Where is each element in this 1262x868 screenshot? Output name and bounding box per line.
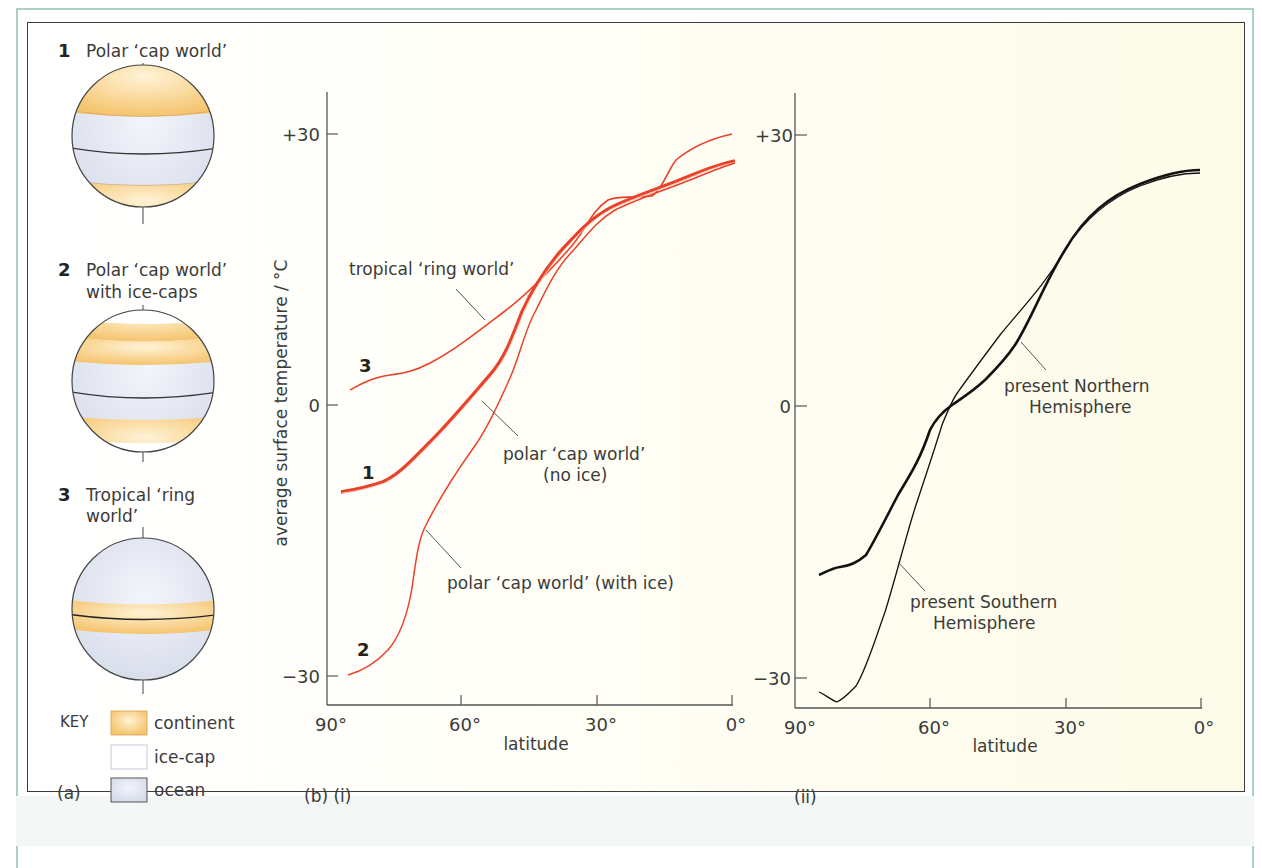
- annotation-northern-line2: Hemisphere: [1029, 397, 1131, 417]
- continent-swatch: [111, 711, 147, 735]
- annotation-no-ice-line1: polar ‘cap world’: [503, 444, 645, 464]
- key-ocean-label: ocean: [154, 780, 205, 800]
- y-tick-plus30-ii: +30: [755, 125, 793, 146]
- annotation-with-ice: polar ‘cap world’ (with ice): [447, 573, 674, 593]
- y-tick-plus30: +30: [282, 124, 320, 145]
- y-tick-0-ii: 0: [780, 396, 791, 417]
- x-tick-30: 30°: [585, 714, 617, 735]
- globe-3-number: 3: [58, 484, 71, 505]
- x-axis-label-ii: latitude: [972, 736, 1037, 756]
- curve-number-3: 3: [359, 355, 372, 376]
- ocean-swatch: [111, 778, 147, 802]
- globe-3-title-line2: world’: [86, 506, 138, 526]
- globe-1-number: 1: [58, 40, 71, 61]
- panel-b-ii-label: (ii): [794, 787, 817, 807]
- panel-b-i-label: (b) (i): [304, 786, 351, 806]
- legend-key: KEY continent ice-cap ocean: [60, 711, 235, 802]
- x-tick-0: 0°: [726, 714, 746, 735]
- panel-a-label: (a): [57, 783, 81, 803]
- y-tick-minus30: −30: [282, 666, 320, 687]
- curve-present-northern-hemisphere: [819, 170, 1200, 575]
- annotation-southern-line1: present Southern: [910, 592, 1057, 612]
- chart-b-i: +30 0 −30 90° 60° 30° 0° latitude averag…: [271, 92, 746, 806]
- x-tick-90: 90°: [315, 714, 347, 735]
- annotation-no-ice-line2: (no ice): [543, 465, 607, 485]
- x-tick-0-ii: 0°: [1194, 717, 1214, 738]
- curve-number-2: 2: [357, 639, 370, 660]
- globe-3-tropical-ring-world: 3 Tropical ‘ring world’: [58, 484, 230, 694]
- y-tick-minus30-ii: −30: [753, 668, 791, 689]
- annotation-northern-line1: present Northern: [1004, 376, 1150, 396]
- globe-1-title: Polar ‘cap world’: [86, 41, 227, 61]
- panel-a-globes: 1 Polar ‘cap world’ 2 Polar ‘cap world’ …: [57, 40, 235, 803]
- x-tick-90-ii: 90°: [784, 717, 816, 738]
- x-axis-label: latitude: [503, 734, 568, 754]
- globe-3-title-line1: Tropical ‘ring: [85, 485, 195, 505]
- ice-cap-swatch: [111, 745, 147, 769]
- globe-2-polar-cap-world-ice: 2 Polar ‘cap world’ with ice-caps: [58, 259, 230, 470]
- x-tick-60-ii: 60°: [918, 717, 950, 738]
- globe-2-title-line2: with ice-caps: [86, 282, 198, 302]
- x-tick-60: 60°: [449, 714, 481, 735]
- key-title: KEY: [60, 713, 89, 731]
- key-ice-cap-label: ice-cap: [154, 747, 215, 767]
- curve-polar-cap-world-with-ice: [348, 163, 735, 675]
- key-continent-label: continent: [154, 713, 235, 733]
- annotation-southern-line2: Hemisphere: [933, 613, 1035, 633]
- chart-b-ii: +30 0 −30 90° 60° 30° 0° latitude presen…: [753, 93, 1214, 807]
- curve-polar-cap-world-no-ice: [341, 161, 735, 492]
- y-axis-label: average surface temperature / °C: [271, 260, 291, 547]
- globe-2-number: 2: [58, 259, 71, 280]
- x-tick-30-ii: 30°: [1054, 717, 1086, 738]
- globe-2-title-line1: Polar ‘cap world’: [86, 260, 227, 280]
- annotation-tropical-ring-world: tropical ‘ring world’: [349, 259, 514, 279]
- curve-number-1: 1: [362, 462, 375, 483]
- y-tick-0: 0: [309, 395, 320, 416]
- globe-1-polar-cap-world: 1 Polar ‘cap world’: [58, 40, 230, 230]
